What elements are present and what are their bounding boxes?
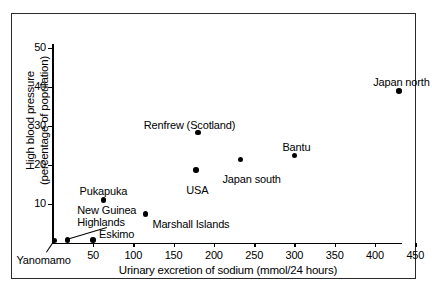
x-axis-title: Urinary excretion of sodium (mmol/24 hou… — [52, 264, 404, 276]
data-point-label-line: Japan north — [373, 76, 429, 88]
x-tick-label: 250 — [237, 249, 271, 261]
data-point — [143, 211, 149, 217]
x-tick-label: 150 — [157, 249, 191, 261]
x-tick-label: 200 — [197, 249, 231, 261]
x-tick-label: 300 — [277, 249, 311, 261]
y-tick-mark — [48, 126, 52, 127]
data-point — [90, 237, 96, 243]
x-tick-label: 450 — [398, 249, 432, 261]
y-tick-label: 30 — [24, 119, 46, 131]
x-tick-label: 400 — [358, 249, 392, 261]
data-point-label: Bantu — [282, 141, 310, 153]
data-point-label-line: USA — [186, 184, 208, 196]
y-tick-label: 40 — [24, 80, 46, 92]
x-tick-mark — [294, 243, 295, 247]
data-point-label: Japan south — [223, 173, 281, 185]
data-point-label: Pukapuka — [80, 185, 128, 197]
data-point-label-line: New Guinea — [77, 204, 136, 216]
data-point-label-line: Pukapuka — [80, 185, 128, 197]
data-point-label-line: Bantu — [282, 141, 310, 153]
y-tick-label: 10 — [24, 197, 46, 209]
data-point-label: Eskimo — [99, 228, 134, 240]
data-point-label: Renfrew (Scotland) — [144, 119, 235, 131]
data-point — [101, 197, 107, 203]
data-point — [195, 130, 201, 136]
y-axis-line — [52, 44, 54, 244]
data-point — [193, 167, 199, 173]
data-point-label-line: Highlands — [77, 216, 125, 228]
data-point-label-line: Renfrew (Scotland) — [144, 119, 235, 131]
y-tick-mark — [48, 165, 52, 166]
data-point — [292, 153, 298, 159]
data-point-label-line: Marshall Islands — [152, 218, 229, 230]
data-point-label-line: Eskimo — [99, 228, 134, 240]
x-tick-mark — [254, 243, 255, 247]
data-point-label-line: Yanomamo — [16, 254, 70, 266]
y-tick-label: 50 — [24, 41, 46, 53]
data-point-label-line: Japan south — [223, 173, 281, 185]
data-point-label: Yanomamo — [16, 254, 70, 266]
data-point — [396, 88, 402, 94]
x-tick-label: 350 — [318, 249, 352, 261]
x-tick-mark — [93, 243, 94, 247]
x-tick-mark — [415, 243, 416, 247]
x-tick-mark — [335, 243, 336, 247]
data-point-label: USA — [186, 184, 208, 196]
y-tick-mark — [48, 48, 52, 49]
y-tick-mark — [48, 204, 52, 205]
data-point-label: Marshall Islands — [152, 218, 229, 230]
data-point-label: Japan north — [373, 76, 429, 88]
x-tick-label: 50 — [76, 249, 110, 261]
x-tick-label: 100 — [116, 249, 150, 261]
x-tick-mark — [375, 243, 376, 247]
x-tick-mark — [133, 243, 134, 247]
y-tick-label: 20 — [24, 158, 46, 170]
x-axis-line — [52, 243, 402, 245]
x-tick-mark — [174, 243, 175, 247]
data-point — [238, 157, 244, 163]
x-tick-mark — [214, 243, 215, 247]
y-tick-mark — [48, 87, 52, 88]
data-point-label: New GuineaHighlands — [77, 204, 136, 228]
